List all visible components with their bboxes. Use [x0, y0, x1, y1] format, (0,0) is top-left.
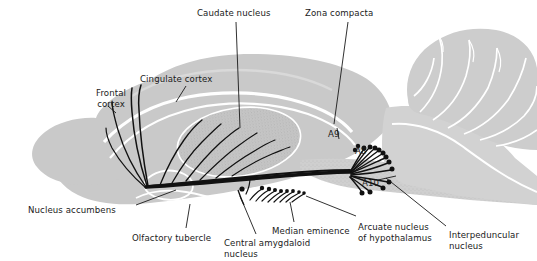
label-frontal-cortex: Frontal cortex [96, 88, 126, 109]
leader-arcuate-nucleus [306, 196, 356, 216]
brain-sagittal-illustration [0, 0, 537, 261]
label-nucleus-accumbens: Nucleus accumbens [28, 205, 116, 216]
label-a8: A8 [355, 146, 367, 157]
label-caudate-nucleus: Caudate nucleus [197, 8, 271, 19]
label-a9: A9 [328, 129, 340, 140]
leader-central-amygdaloid [240, 196, 256, 234]
leader-median-eminence [290, 202, 294, 222]
label-a10: A10 [362, 178, 379, 189]
label-arcuate-nucleus-of-hypothalamus: Arcuate nucleus of hypothalamus [358, 222, 432, 243]
label-interpeduncular-nucleus: Interpeduncular nucleus [449, 230, 519, 251]
leader-olfactory-tubercle [186, 204, 190, 228]
label-median-eminence: Median eminence [272, 226, 350, 237]
label-cingulate-cortex: Cingulate cortex [140, 74, 213, 85]
label-central-amygdaloid-nucleus: Central amygdaloid nucleus [224, 238, 310, 259]
median-eminence-outline [286, 187, 314, 190]
terminal-fibers [250, 189, 304, 202]
brain-pathway-diagram: Caudate nucleus Zona compacta Cingulate … [0, 0, 537, 261]
label-zona-compacta: Zona compacta [305, 8, 373, 19]
label-olfactory-tubercle: Olfactory tubercle [132, 233, 211, 244]
